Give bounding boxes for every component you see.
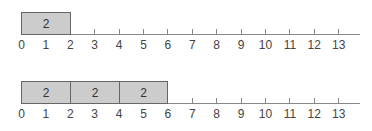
- tick-label: 11: [284, 38, 296, 52]
- axis-tick: [289, 98, 290, 103]
- axis-tick: [216, 29, 217, 34]
- tick-label: 4: [116, 38, 123, 52]
- tick-label: 11: [284, 107, 296, 121]
- tick-label: 4: [116, 107, 123, 121]
- axis-line: [21, 34, 360, 35]
- tick-label: 12: [308, 107, 321, 121]
- axis-tick: [143, 29, 144, 34]
- tick-label: 3: [91, 38, 98, 52]
- axis-tick: [119, 29, 120, 34]
- tick-label: 5: [140, 38, 147, 52]
- tick-label: 6: [165, 107, 172, 121]
- tick-label: 9: [238, 38, 245, 52]
- axis-tick: [338, 29, 339, 34]
- axis-tick: [216, 98, 217, 103]
- tick-label: 13: [332, 107, 345, 121]
- axis-tick: [241, 98, 242, 103]
- tick-label: 5: [140, 107, 147, 121]
- tick-label: 0: [18, 38, 25, 52]
- segment-block: 2: [21, 12, 71, 35]
- tick-label: 8: [213, 38, 220, 52]
- number-line-bottom: 012345678910111213222: [0, 69, 372, 129]
- axis-tick: [314, 29, 315, 34]
- axis-tick: [241, 29, 242, 34]
- tick-label: 8: [213, 107, 220, 121]
- tick-label: 2: [67, 107, 74, 121]
- segment-block: 2: [21, 81, 71, 104]
- tick-label: 2: [67, 38, 74, 52]
- tick-label: 6: [165, 38, 172, 52]
- tick-label: 12: [308, 38, 321, 52]
- tick-label: 3: [91, 107, 98, 121]
- axis-tick: [192, 29, 193, 34]
- tick-label: 9: [238, 107, 245, 121]
- number-line-top: 0123456789101112132: [0, 0, 372, 60]
- tick-label: 1: [43, 107, 50, 121]
- axis-tick: [265, 29, 266, 34]
- axis-tick: [314, 98, 315, 103]
- axis-tick: [94, 29, 95, 34]
- tick-label: 1: [43, 38, 50, 52]
- tick-label: 10: [259, 38, 272, 52]
- tick-label: 7: [189, 107, 196, 121]
- segment-block: 2: [70, 81, 120, 104]
- tick-label: 10: [259, 107, 272, 121]
- axis-tick: [289, 29, 290, 34]
- tick-label: 0: [18, 107, 25, 121]
- axis-tick: [265, 98, 266, 103]
- tick-label: 13: [332, 38, 345, 52]
- axis-tick: [192, 98, 193, 103]
- tick-label: 7: [189, 38, 196, 52]
- segment-block: 2: [119, 81, 168, 104]
- axis-tick: [338, 98, 339, 103]
- axis-tick: [167, 29, 168, 34]
